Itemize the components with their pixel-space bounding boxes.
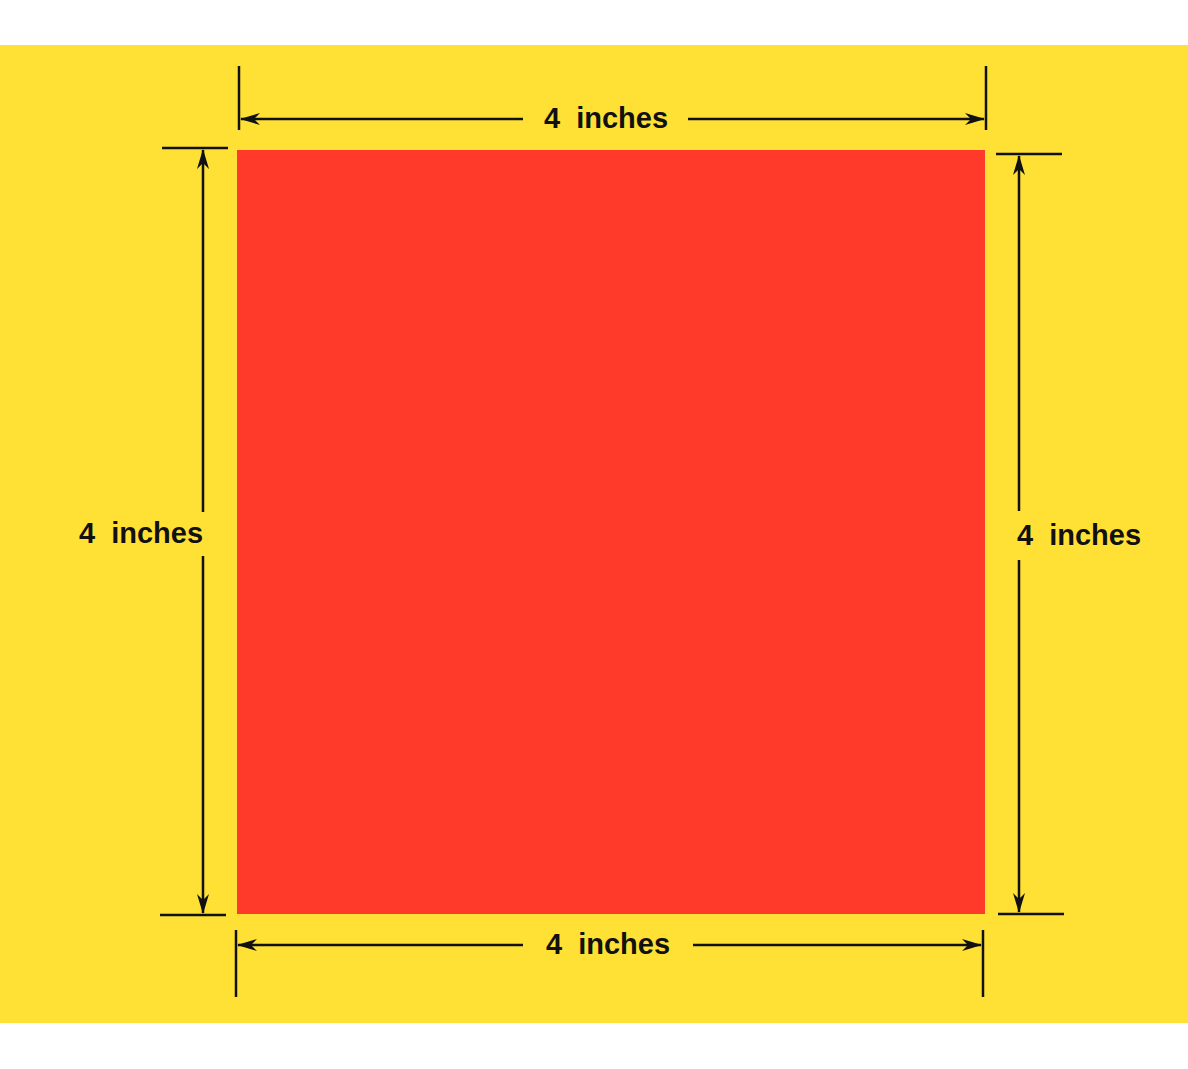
- red-square: [237, 150, 985, 914]
- right-label: 4 inches: [1017, 519, 1141, 551]
- bottom-label: 4 inches: [546, 928, 670, 960]
- diagram-canvas: 4 inches 4 inches 4 inches 4 inches: [0, 0, 1188, 1069]
- left-label: 4 inches: [79, 517, 203, 549]
- top-label: 4 inches: [544, 102, 668, 134]
